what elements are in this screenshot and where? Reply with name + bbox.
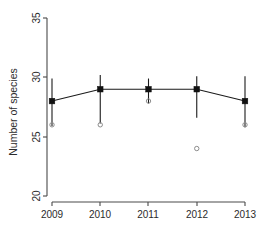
x-tick-label-2011: 2011 — [137, 209, 159, 220]
mean-marker-2013 — [242, 98, 248, 104]
mean-marker-2012 — [194, 86, 200, 92]
mean-marker-2009 — [49, 98, 55, 104]
observed-point-2012 — [195, 146, 199, 150]
mean-marker-2011 — [146, 86, 152, 92]
y-tick-label-25: 25 — [31, 131, 42, 143]
y-tick-label-35: 35 — [31, 12, 42, 24]
x-tick-label-2010: 2010 — [89, 209, 112, 220]
y-tick-label-30: 30 — [31, 71, 42, 83]
species-error-bar-chart: 35 30 25 20 Number of species 2009 2010 … — [0, 0, 274, 236]
x-tick-label-2013: 2013 — [234, 209, 257, 220]
chart-container: 35 30 25 20 Number of species 2009 2010 … — [0, 0, 274, 236]
x-tick-label-2012: 2012 — [186, 209, 209, 220]
y-axis-label: Number of species — [7, 68, 19, 156]
observed-points-group — [50, 99, 247, 151]
x-tick-label-2009: 2009 — [41, 209, 64, 220]
mean-marker-2010 — [97, 86, 103, 92]
error-bars-group — [52, 75, 245, 127]
y-tick-label-20: 20 — [31, 190, 42, 202]
